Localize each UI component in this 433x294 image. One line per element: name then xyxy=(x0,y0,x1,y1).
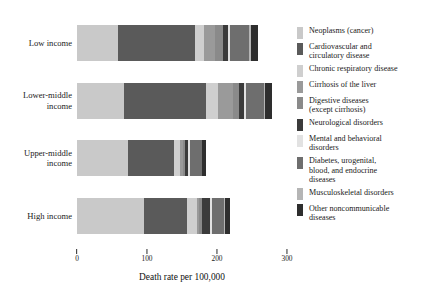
legend-item[interactable]: Mental and behavioraldisorders xyxy=(297,134,431,153)
plot-area xyxy=(77,14,287,245)
x-axis-tick: 200 xyxy=(211,249,222,263)
bar-segment[interactable] xyxy=(144,198,187,234)
legend-swatch xyxy=(297,97,303,109)
x-axis-tick: 0 xyxy=(75,249,79,263)
legend-swatch xyxy=(297,43,303,55)
bar-segment[interactable] xyxy=(218,83,233,119)
legend-swatch xyxy=(297,119,303,131)
stacked-bar[interactable] xyxy=(77,198,230,234)
bar-segment[interactable] xyxy=(215,25,223,61)
legend-label: Other noncommunicablediseases xyxy=(309,204,389,223)
bar-row xyxy=(77,198,287,234)
bar-segment[interactable] xyxy=(195,25,204,61)
bar-segment[interactable] xyxy=(190,140,202,176)
bar-segment[interactable] xyxy=(202,140,206,176)
category-label: Low income xyxy=(0,38,72,49)
bar-row xyxy=(77,83,287,119)
legend-item[interactable]: Other noncommunicablediseases xyxy=(297,204,431,223)
tick-label: 200 xyxy=(211,255,222,263)
legend-label: Musculoskeletal disorders xyxy=(309,188,394,197)
bar-segment[interactable] xyxy=(230,25,249,61)
category-label: Upper-middleincome xyxy=(0,148,72,169)
bar-segment[interactable] xyxy=(124,83,207,119)
bar-segment[interactable] xyxy=(265,83,272,119)
bar-segment[interactable] xyxy=(128,140,174,176)
legend-label: Digestive diseases(except cirrhosis) xyxy=(309,96,369,115)
bar-row xyxy=(77,140,287,176)
bar-segment[interactable] xyxy=(202,198,210,234)
x-axis-title: Death rate per 100,000 xyxy=(77,272,287,282)
category-label: High income xyxy=(0,211,72,222)
category-label: Lower-middleincome xyxy=(0,90,72,111)
legend-item[interactable]: Neoplasms (cancer) xyxy=(297,26,431,39)
legend-swatch xyxy=(297,188,303,200)
legend-swatch xyxy=(297,81,303,93)
legend-item[interactable]: Neurological disorders xyxy=(297,118,431,131)
legend-item[interactable]: Musculoskeletal disorders xyxy=(297,188,431,201)
stacked-bar[interactable] xyxy=(77,140,206,176)
bar-segment[interactable] xyxy=(187,198,197,234)
tick-label: 300 xyxy=(281,255,292,263)
stacked-bar[interactable] xyxy=(77,25,258,61)
legend-item[interactable]: Diabetes, urogenital,blood, and endocrin… xyxy=(297,156,431,184)
legend-swatch xyxy=(297,157,303,169)
legend-item[interactable]: Cirrhosis of the liver xyxy=(297,80,431,93)
legend-label: Diabetes, urogenital,blood, and endocrin… xyxy=(309,156,377,184)
bar-segment[interactable] xyxy=(212,198,224,234)
tick-label: 100 xyxy=(141,255,152,263)
x-axis-tick: 100 xyxy=(141,249,152,263)
legend-item[interactable]: Digestive diseases(except cirrhosis) xyxy=(297,96,431,115)
bar-row xyxy=(77,25,287,61)
bar-segment[interactable] xyxy=(251,25,259,61)
legend-label: Chronic respiratory disease xyxy=(309,64,398,73)
legend-swatch xyxy=(297,204,303,216)
bar-segment[interactable] xyxy=(118,25,195,61)
x-axis-tick: 300 xyxy=(281,249,292,263)
stacked-bar[interactable] xyxy=(77,83,272,119)
legend-item[interactable]: Chronic respiratory disease xyxy=(297,64,431,77)
legend-label: Mental and behavioraldisorders xyxy=(309,134,382,153)
legend-label: Cirrhosis of the liver xyxy=(309,80,376,89)
legend-label: Cardiovascular andcirculatory disease xyxy=(309,42,372,61)
tick-label: 0 xyxy=(75,255,79,263)
bar-segment[interactable] xyxy=(225,198,230,234)
chart-legend: Neoplasms (cancer)Cardiovascular andcirc… xyxy=(297,26,431,226)
bar-segment[interactable] xyxy=(206,83,217,119)
legend-swatch xyxy=(297,135,303,147)
x-axis: 0100200300 xyxy=(77,249,287,271)
bar-segment[interactable] xyxy=(77,25,118,61)
legend-item[interactable]: Cardiovascular andcirculatory disease xyxy=(297,42,431,61)
chart-figure: Low incomeLower-middleincomeUpper-middle… xyxy=(0,0,433,294)
bar-segment[interactable] xyxy=(246,83,264,119)
category-axis-labels: Low incomeLower-middleincomeUpper-middle… xyxy=(0,14,72,245)
legend-label: Neurological disorders xyxy=(309,118,383,127)
bar-segment[interactable] xyxy=(77,140,128,176)
bar-segment[interactable] xyxy=(77,198,144,234)
legend-swatch xyxy=(297,27,303,39)
bar-segment[interactable] xyxy=(77,83,124,119)
legend-swatch xyxy=(297,65,303,77)
bar-segment[interactable] xyxy=(204,25,215,61)
legend-label: Neoplasms (cancer) xyxy=(309,26,374,35)
